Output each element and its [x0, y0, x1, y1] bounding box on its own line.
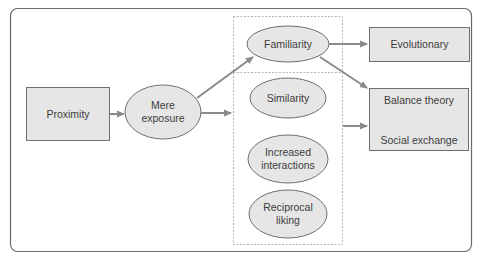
- familiarity-text: Familiarity: [264, 38, 312, 51]
- proximity-text: Proximity: [46, 108, 89, 121]
- increased-interactions-line1: Increased: [265, 146, 311, 159]
- balance-theory-label: Balance theory: [369, 90, 469, 110]
- social-exchange-label: Social exchange: [369, 130, 469, 150]
- reciprocal-liking-label: Reciprocal liking: [249, 190, 327, 238]
- reciprocal-liking-line2: liking: [276, 214, 300, 227]
- increased-interactions-label: Increased interactions: [248, 135, 328, 183]
- similarity-label: Similarity: [250, 78, 326, 118]
- similarity-text: Similarity: [267, 92, 310, 105]
- balance-theory-text: Balance theory: [384, 94, 454, 107]
- increased-interactions-line2: interactions: [261, 159, 315, 172]
- proximity-label: Proximity: [26, 87, 110, 141]
- social-exchange-text: Social exchange: [380, 134, 457, 147]
- reciprocal-liking-line1: Reciprocal: [263, 201, 313, 214]
- evolutionary-text: Evolutionary: [391, 38, 449, 51]
- evolutionary-label: Evolutionary: [369, 27, 470, 62]
- mere-exposure-line2: exposure: [141, 112, 184, 125]
- mere-exposure-label: Mere exposure: [125, 85, 201, 139]
- familiarity-label: Familiarity: [247, 26, 329, 62]
- mere-exposure-line1: Mere: [151, 99, 175, 112]
